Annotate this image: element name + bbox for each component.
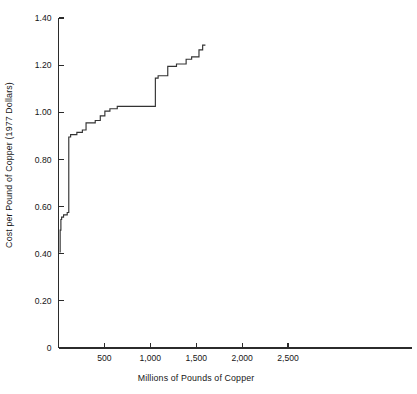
x-axis-title: Millions of Pounds of Copper <box>138 373 255 383</box>
x-tick-label-1: 1,000 <box>140 353 162 363</box>
y-tick-label-5: 1.00 <box>35 107 52 117</box>
y-tick-label-4: 0.80 <box>35 155 52 165</box>
y-tick-label-0: 0 <box>47 343 52 353</box>
y-tick-label-2: 0.40 <box>35 249 52 259</box>
y-tick-label-1: 0.20 <box>35 296 52 306</box>
x-axis-ticks <box>104 343 288 349</box>
y-tick-label-6: 1.20 <box>35 60 52 70</box>
x-tick-label-2: 1,500 <box>185 353 207 363</box>
data-series-copper-supply-curve <box>60 45 205 252</box>
y-axis-title: Cost per Pound of Copper (1977 Dollars) <box>4 82 14 248</box>
x-axis-tick-labels: 5001,0001,5002,0002,500 <box>97 353 299 363</box>
x-tick-label-4: 2,500 <box>277 353 299 363</box>
chart-container: 00.200.400.600.801.001.201.40 5001,0001,… <box>0 0 417 394</box>
x-tick-label-3: 2,000 <box>231 353 253 363</box>
y-axis-tick-labels: 00.200.400.600.801.001.201.40 <box>35 13 52 353</box>
y-tick-label-3: 0.60 <box>35 202 52 212</box>
y-axis-ticks <box>59 18 65 348</box>
y-tick-label-7: 1.40 <box>35 13 52 23</box>
copper-supply-step-chart: 00.200.400.600.801.001.201.40 5001,0001,… <box>0 0 417 394</box>
x-tick-label-0: 500 <box>97 353 112 363</box>
